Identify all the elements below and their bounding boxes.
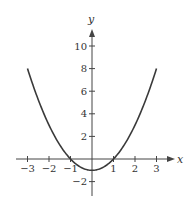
y-tick-label: 2	[81, 131, 87, 142]
x-tick-label: −2	[42, 163, 57, 174]
y-axis-arrow-icon	[89, 29, 95, 37]
x-tick-label: 1	[110, 163, 116, 174]
y-tick-label: 6	[81, 86, 87, 97]
y-tick-label: 4	[81, 108, 87, 119]
y-tick-label: −2	[72, 176, 87, 187]
parabola-chart: −3−2−1123108642−2 x y	[0, 0, 196, 200]
x-axis-label: x	[177, 153, 184, 166]
ticks: −3−2−1123108642−2	[20, 41, 160, 188]
x-tick-label: 3	[153, 163, 159, 174]
x-axis-arrow-icon	[167, 156, 175, 162]
y-axis-label: y	[87, 13, 95, 26]
plot-area: −3−2−1123108642−2 x y	[0, 0, 196, 200]
x-tick-label: 2	[132, 163, 138, 174]
y-tick-label: 8	[81, 63, 87, 74]
x-tick-label: −3	[20, 163, 35, 174]
axes	[16, 29, 175, 196]
y-tick-label: 10	[74, 41, 87, 52]
